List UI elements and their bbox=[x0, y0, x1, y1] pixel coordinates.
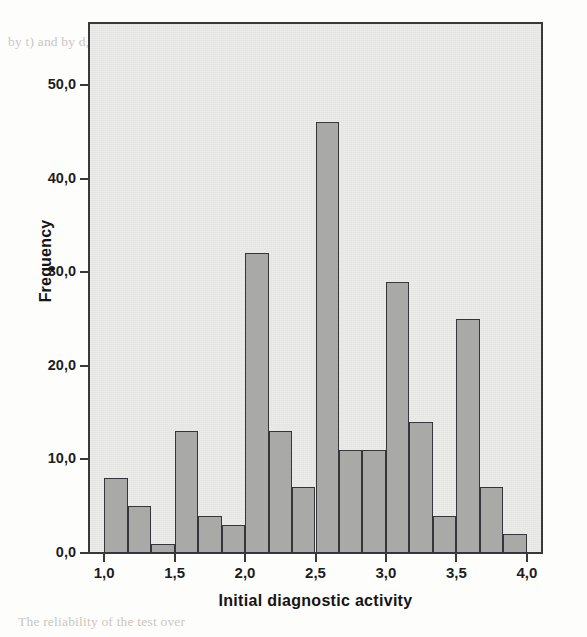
y-axis-tick bbox=[80, 365, 88, 367]
y-axis-tick-label-text: 20,0 bbox=[30, 357, 76, 373]
y-axis-tick-label: 10,0 bbox=[24, 450, 76, 466]
x-axis-tick-label: 3,0 bbox=[359, 564, 413, 582]
y-axis-title: Frequency bbox=[37, 181, 55, 341]
x-axis-tick-label: 4,0 bbox=[500, 564, 554, 582]
x-axis-tick-label: 1,5 bbox=[148, 564, 202, 582]
y-axis-tick-label-text: 50,0 bbox=[30, 76, 76, 92]
x-axis-tick-label: 1,0 bbox=[77, 564, 131, 582]
x-axis-tick-label-text: 2,0 bbox=[235, 564, 256, 581]
x-axis-tick-label-text: 1,0 bbox=[94, 564, 115, 581]
y-axis-tick bbox=[80, 178, 88, 180]
y-axis-tick bbox=[80, 552, 88, 554]
x-axis-tick bbox=[455, 553, 457, 562]
y-axis-tick bbox=[80, 271, 88, 273]
x-axis-tick-label-text: 3,0 bbox=[376, 564, 397, 581]
x-axis-tick-label: 3,5 bbox=[429, 564, 483, 582]
x-axis-tick-label: 2,5 bbox=[289, 564, 343, 582]
x-axis-tick bbox=[385, 553, 387, 562]
x-axis-tick-label-text: 2,5 bbox=[305, 564, 326, 581]
y-axis-tick-label: 50,0 bbox=[24, 76, 76, 92]
x-axis-tick-label: 2,0 bbox=[218, 564, 272, 582]
x-axis-tick bbox=[244, 553, 246, 562]
x-axis-tick bbox=[315, 553, 317, 562]
x-axis-tick-label-text: 3,5 bbox=[446, 564, 467, 581]
x-axis-tick bbox=[174, 553, 176, 562]
x-axis-tick-label-text: 4,0 bbox=[516, 564, 537, 581]
y-axis-tick bbox=[80, 458, 88, 460]
histogram-figure: 0,010,020,030,040,050,0 1,01,52,02,53,03… bbox=[0, 0, 587, 637]
y-axis-tick bbox=[80, 84, 88, 86]
y-axis-tick-label-text: 10,0 bbox=[30, 450, 76, 466]
y-axis-tick-label: 0,0 bbox=[24, 544, 76, 560]
y-axis-tick-label: 20,0 bbox=[24, 357, 76, 373]
x-axis-title: Initial diagnostic activity bbox=[88, 592, 543, 610]
plot-panel bbox=[88, 22, 543, 554]
x-axis-tick bbox=[103, 553, 105, 562]
x-axis-tick-label-text: 1,5 bbox=[164, 564, 185, 581]
y-axis-tick-label-text: 0,0 bbox=[30, 544, 76, 560]
x-axis-tick bbox=[526, 553, 528, 562]
